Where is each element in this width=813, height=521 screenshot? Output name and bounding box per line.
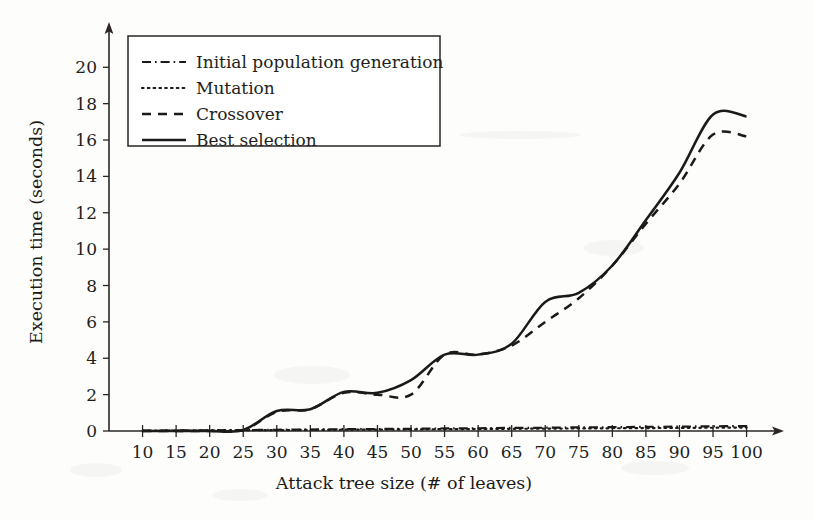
x-tick-label: 20	[199, 442, 221, 462]
x-axis-title: Attack tree size (# of leaves)	[275, 473, 532, 493]
y-tick-label: 2	[86, 385, 97, 405]
x-tick-label: 60	[467, 442, 489, 462]
y-tick-label: 12	[75, 203, 97, 223]
x-tick-label: 80	[602, 442, 624, 462]
x-tick-label: 75	[568, 442, 590, 462]
legend-label: Crossover	[196, 104, 284, 124]
y-tick-label: 14	[75, 166, 97, 186]
legend: Initial population generationMutationCro…	[128, 36, 443, 150]
legend-label: Initial population generation	[196, 52, 443, 72]
x-tick-label: 35	[300, 442, 322, 462]
y-tick-label: 6	[86, 312, 97, 332]
y-tick-label: 8	[86, 276, 97, 296]
y-tick-label: 18	[75, 94, 97, 114]
x-tick-label: 90	[669, 442, 691, 462]
x-tick-label: 50	[400, 442, 422, 462]
legend-label: Best selection	[196, 130, 317, 150]
x-tick-label: 40	[333, 442, 355, 462]
x-tick-label: 10	[132, 442, 154, 462]
y-tick-label: 16	[75, 130, 97, 150]
x-tick-label: 100	[730, 442, 762, 462]
x-tick-label: 30	[266, 442, 288, 462]
x-tick-label: 95	[702, 442, 724, 462]
y-tick-label: 20	[75, 57, 97, 77]
y-tick-label: 0	[86, 421, 97, 441]
legend-label: Mutation	[196, 78, 275, 98]
x-tick-label: 55	[434, 442, 456, 462]
x-tick-label: 45	[367, 442, 389, 462]
y-axis-title: Execution time (seconds)	[26, 120, 46, 344]
y-tick-label: 10	[75, 239, 97, 259]
x-tick-label: 65	[501, 442, 523, 462]
x-tick-label: 15	[165, 442, 187, 462]
x-tick-label: 70	[534, 442, 556, 462]
y-tick-label: 4	[86, 348, 97, 368]
chart-figure: 02468101214161820 1015202530354045505560…	[0, 0, 813, 521]
execution-time-line-chart: 02468101214161820 1015202530354045505560…	[0, 0, 813, 521]
x-tick-label: 85	[635, 442, 657, 462]
x-tick-label: 25	[232, 442, 254, 462]
